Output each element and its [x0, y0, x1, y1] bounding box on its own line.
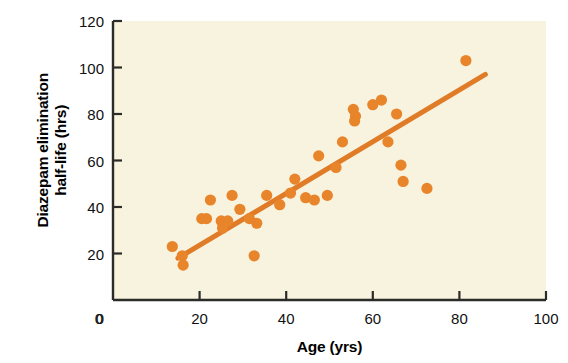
data-point	[421, 183, 432, 194]
data-point	[222, 215, 233, 226]
data-point	[398, 176, 409, 187]
data-point	[289, 174, 300, 185]
data-point	[285, 187, 296, 198]
data-point	[226, 190, 237, 201]
data-point	[330, 162, 341, 173]
y-tick-label: 120	[58, 13, 104, 30]
data-point	[309, 194, 320, 205]
data-point	[460, 55, 471, 66]
data-point	[391, 108, 402, 119]
data-point	[322, 190, 333, 201]
data-point	[382, 136, 393, 147]
y-tick-label: 60	[58, 152, 104, 169]
data-point	[261, 190, 272, 201]
data-point	[251, 218, 262, 229]
data-point	[205, 194, 216, 205]
data-point	[178, 260, 189, 271]
y-tick-label: 40	[58, 199, 104, 216]
data-point	[350, 111, 361, 122]
data-point	[376, 94, 387, 105]
data-point	[234, 204, 245, 215]
x-tick-label: 100	[533, 310, 558, 327]
data-point	[313, 150, 324, 161]
y-tick-label: 80	[58, 106, 104, 123]
x-tick-label: 0	[95, 310, 103, 327]
data-point	[395, 160, 406, 171]
x-tick-label: 60	[364, 310, 381, 327]
data-point	[167, 241, 178, 252]
data-point	[274, 199, 285, 210]
data-point	[201, 213, 212, 224]
y-tick-label: 20	[58, 245, 104, 262]
y-tick-label: 100	[58, 59, 104, 76]
chart-figure: Diazepam elimination half-life (hrs) Age…	[0, 0, 568, 363]
data-point	[249, 250, 260, 261]
x-tick-label: 80	[451, 310, 468, 327]
x-tick-label: 40	[278, 310, 295, 327]
data-point	[337, 136, 348, 147]
x-tick-label: 20	[191, 310, 208, 327]
